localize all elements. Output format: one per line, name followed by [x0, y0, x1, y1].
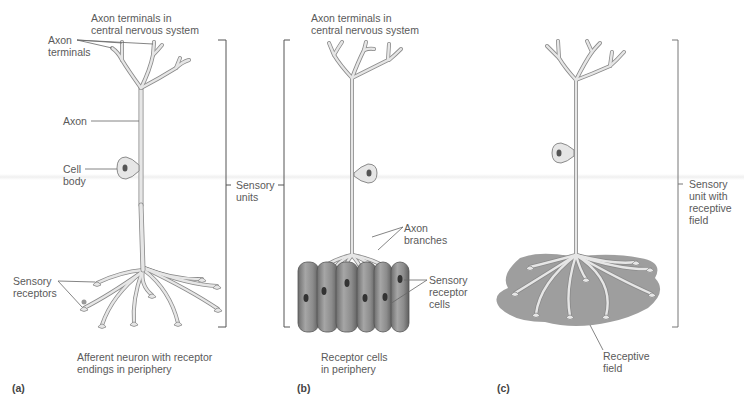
panel-a-cell-body	[117, 157, 139, 179]
panel-b-receptor-cells	[298, 262, 409, 332]
label-cell-body: Cell body	[63, 163, 86, 187]
caption-b: Receptor cells in periphery	[321, 351, 388, 375]
sensory-neuron-diagram	[0, 0, 744, 403]
label-sensory-units: Sensory units	[236, 179, 275, 203]
panel-c-leader-lines	[590, 325, 603, 350]
label-receptive-field: Receptive field	[603, 350, 650, 374]
panel-label-a: (a)	[12, 382, 25, 394]
panel-c-cell-body	[552, 143, 574, 163]
label-axon-terminals: Axon terminals	[48, 34, 91, 58]
label-sensory-receptors: Sensory receptors	[13, 275, 57, 299]
label-axon-terminals-cns-b: Axon terminals in central nervous system	[311, 12, 419, 36]
label-axon-terminals-cns-a: Axon terminals in central nervous system	[91, 12, 199, 36]
panel-b-neuron	[310, 42, 402, 285]
panel-label-c: (c)	[497, 382, 510, 394]
caption-a: Afferent neuron with receptor endings in…	[77, 351, 212, 375]
label-sensory-unit-receptive-field: Sensory unit with receptive field	[689, 178, 732, 226]
label-sensory-receptor-cells: Sensory receptor cells	[429, 274, 468, 310]
label-axon: Axon	[63, 115, 87, 127]
panel-label-b: (b)	[297, 382, 310, 394]
label-axon-branches: Axon branches	[404, 222, 447, 246]
panel-c-bracket	[672, 40, 683, 327]
panel-b-cell-body	[354, 164, 377, 183]
panel-a-neuron	[84, 42, 218, 325]
